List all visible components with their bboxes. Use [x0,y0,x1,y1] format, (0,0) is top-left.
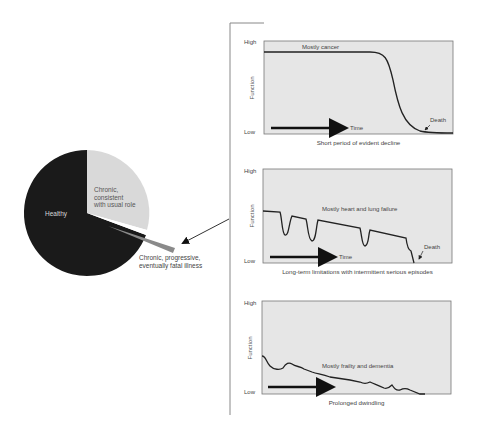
pointer-arrow [183,219,229,243]
pie-label-progressive-fatal: Chronic, progressive, eventually fatal i… [139,254,202,269]
series-label: Mostly heart and lung failure [322,206,397,213]
pie-label-chronic-consistent: Chronic, consistent with usual role [94,186,136,209]
chart-cancer [264,41,453,134]
diagram-graphics [0,0,478,440]
y-axis-label: Function [249,204,255,227]
y-low-label: Low [244,129,255,136]
time-label: Time [350,125,363,132]
chart-caption: Long-term limitations with intermittent … [263,268,452,275]
chart-caption: Short period of evident decline [264,139,453,146]
y-axis-label: Function [247,336,253,359]
chart-caption: Prolonged dwindling [262,399,451,406]
death-label: Death [424,244,440,251]
y-axis-label: Function [249,76,255,99]
y-high-label: High [244,300,256,307]
death-label: Death [430,117,446,124]
pie-label-healthy: Healthy [45,210,67,218]
y-low-label: Low [244,389,255,396]
y-low-label: Low [244,258,255,265]
y-high-label: High [244,39,256,46]
time-label: Time [339,254,352,261]
y-high-label: High [244,168,256,175]
series-label: Mostly cancer [302,44,339,51]
series-label: Mostly frailty and dementia [322,363,393,370]
chart-frailty [262,301,451,394]
trajectories-diagram: Healthy Chronic, consistent with usual r… [0,0,478,440]
